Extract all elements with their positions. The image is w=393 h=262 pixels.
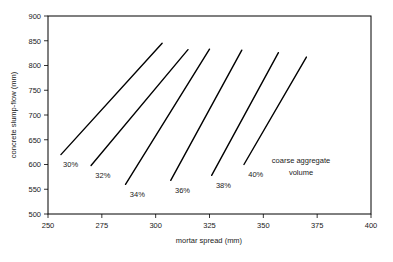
annotation-line-2: volume [289,168,313,177]
x-tick-label: 250 [42,221,55,230]
y-axis-title: concrete slump-flow (mm) [9,71,18,158]
annotation-line-1: coarse aggregate [272,156,330,165]
series-label-34pct: 34% [130,190,145,199]
x-tick-label: 400 [365,221,378,230]
x-tick-label: 350 [257,221,270,230]
series-label-30pct: 30% [63,160,78,169]
series-label-32pct: 32% [95,171,110,180]
x-tick-label: 375 [311,221,324,230]
data-series-lines [61,43,306,184]
series-line-38pct [212,53,279,176]
series-label-38pct: 38% [216,181,231,190]
y-tick-label: 850 [28,37,41,46]
data-series-labels: 30%32%34%36%38%40% [63,160,264,199]
series-line-36pct [171,50,242,180]
slump-flow-vs-mortar-spread-chart: 500550600650700750800850900 250275300325… [0,0,393,262]
series-label-36pct: 36% [175,186,190,195]
x-tick-label: 275 [96,221,109,230]
chart-container: 500550600650700750800850900 250275300325… [0,0,393,262]
y-tick-label: 550 [28,185,41,194]
x-tick-label: 300 [149,221,162,230]
y-tick-label: 500 [28,210,41,219]
x-axis-tick-marks [48,214,371,218]
y-tick-label: 600 [28,160,41,169]
x-axis-title: mortar spread (mm) [176,236,243,245]
x-tick-label: 325 [203,221,216,230]
y-tick-label: 750 [28,86,41,95]
y-axis-tick-marks [44,16,48,214]
x-axis-tick-labels: 250275300325350375400 [42,221,378,230]
series-label-40pct: 40% [248,170,263,179]
y-tick-label: 650 [28,136,41,145]
y-tick-label: 900 [28,12,41,21]
y-tick-label: 800 [28,61,41,70]
series-line-40pct [244,57,306,164]
y-tick-label: 700 [28,111,41,120]
y-axis-tick-labels: 500550600650700750800850900 [28,12,41,219]
